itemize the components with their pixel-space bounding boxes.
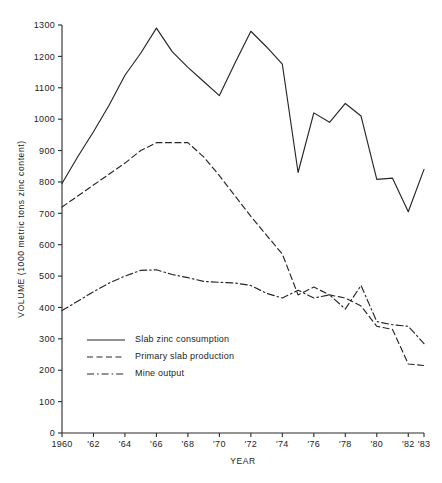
- y-axis-tick-label: 300: [39, 334, 55, 344]
- y-axis-tick-label: 1200: [34, 52, 55, 62]
- y-axis-tick-label: 1000: [34, 114, 55, 124]
- legend-label-2: Mine output: [135, 368, 185, 378]
- y-axis-tick-label: 400: [39, 303, 55, 313]
- x-axis-tick-label: '82: [402, 439, 415, 449]
- series-line-2: [62, 270, 424, 344]
- x-axis-tick-label: '68: [182, 439, 195, 449]
- x-axis-tick-label: '62: [87, 439, 100, 449]
- y-axis-tick-label: 200: [39, 365, 55, 375]
- y-axis-tick-label: 800: [39, 177, 55, 187]
- y-axis-title: VOLUME (1000 metric tons zinc content): [16, 140, 26, 317]
- y-axis-tick-label: 100: [39, 397, 55, 407]
- x-axis-tick-label: '70: [213, 439, 226, 449]
- zinc-volume-line-chart: 0100200300400500600700800900100011001200…: [0, 0, 442, 483]
- x-axis-tick-label: '74: [276, 439, 289, 449]
- x-axis-tick-label: '80: [370, 439, 383, 449]
- x-axis-tick-label: '78: [339, 439, 352, 449]
- chart-legend: Slab zinc consumptionPrimary slab produc…: [87, 334, 234, 378]
- series-lines: [62, 28, 424, 365]
- chart-canvas: 0100200300400500600700800900100011001200…: [0, 0, 442, 483]
- x-axis-tick-label: '64: [119, 439, 132, 449]
- y-axis-tick-label: 700: [39, 209, 55, 219]
- legend-label-0: Slab zinc consumption: [135, 334, 229, 344]
- x-axis-tick-label: '72: [245, 439, 258, 449]
- y-axis-tick-label: 600: [39, 240, 55, 250]
- y-axis-tick-label: 1100: [34, 83, 55, 93]
- x-axis: 1960'62'64'66'68'70'72'74'76'78'80'82'83: [51, 433, 430, 449]
- legend-label-1: Primary slab production: [135, 351, 234, 361]
- x-axis-tick-label: '76: [308, 439, 321, 449]
- x-axis-tick-label: '83: [418, 439, 431, 449]
- series-line-1: [62, 143, 424, 366]
- y-axis: 0100200300400500600700800900100011001200…: [34, 20, 62, 438]
- y-axis-tick-label: 900: [39, 146, 55, 156]
- y-axis-tick-label: 1300: [34, 20, 55, 30]
- x-axis-title: YEAR: [230, 456, 256, 466]
- series-line-0: [62, 28, 424, 212]
- y-axis-tick-label: 500: [39, 271, 55, 281]
- x-axis-tick-label: '66: [150, 439, 163, 449]
- y-axis-tick-label: 0: [50, 428, 55, 438]
- x-axis-tick-label: 1960: [51, 439, 72, 449]
